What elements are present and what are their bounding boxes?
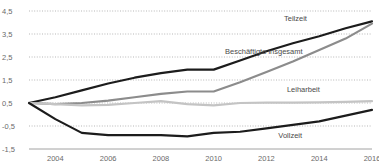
series-lines xyxy=(29,21,372,136)
x-axis-tick-labels: 2004200620082010201220142016 xyxy=(47,154,379,163)
series-label: Beschäftigte insgesamt xyxy=(225,47,303,56)
y-axis-tick-label: -1,5 xyxy=(2,145,15,154)
series-label: Leiharbeit xyxy=(287,85,321,94)
y-axis-tick-label: 2,5 xyxy=(2,53,12,62)
x-axis-tick-label: 2008 xyxy=(153,154,170,163)
series-label: Vollzeit xyxy=(278,131,303,140)
series-label: Teilzeit xyxy=(284,14,308,23)
y-axis-tick-label: -0,5 xyxy=(2,122,15,131)
chart-canvas: 4,53,52,51,50,5-0,5-1,5 2004200620082010… xyxy=(0,0,379,166)
x-axis-tick-label: 2006 xyxy=(100,154,117,163)
x-axis-tick-label: 2004 xyxy=(47,154,64,163)
series-inline-labels: TeilzeitBeschäftigte insgesamtLeiharbeit… xyxy=(225,14,321,140)
x-axis-tick-label: 2012 xyxy=(258,154,275,163)
y-axis-tick-label: 4,5 xyxy=(2,7,12,16)
x-axis-tick-label: 2010 xyxy=(205,154,222,163)
series-line xyxy=(29,103,372,136)
y-axis-tick-label: 0,5 xyxy=(2,99,12,108)
gridlines xyxy=(29,11,372,149)
y-axis-tick-label: 1,5 xyxy=(2,76,12,85)
y-axis-tick-label: 3,5 xyxy=(2,30,12,39)
x-axis-tick-label: 2014 xyxy=(311,154,328,163)
x-axis-tick-label: 2016 xyxy=(364,154,379,163)
line-chart: 4,53,52,51,50,5-0,5-1,5 2004200620082010… xyxy=(0,0,379,166)
y-axis-tick-labels: 4,53,52,51,50,5-0,5-1,5 xyxy=(2,7,15,154)
